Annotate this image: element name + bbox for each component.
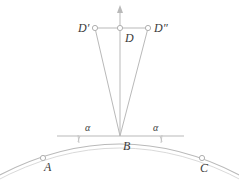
- point-marker-d-double-prime: [145, 25, 150, 30]
- label-alpha-right: α: [153, 123, 158, 133]
- label-b: B: [123, 140, 130, 152]
- point-marker-d: [117, 25, 122, 30]
- up-arrow-head-icon: [117, 5, 123, 13]
- label-a: A: [44, 161, 51, 173]
- diagram-canvas: [0, 0, 239, 182]
- label-d: D: [125, 32, 134, 44]
- label-d-double-prime: D″: [154, 22, 168, 34]
- label-d-prime: D′: [78, 22, 89, 34]
- point-marker-c: [199, 155, 204, 160]
- point-marker-d-prime: [92, 25, 97, 30]
- label-alpha-left: α: [85, 123, 90, 133]
- label-c: C: [200, 162, 208, 174]
- segment-b-to-d-prime: [95, 28, 120, 136]
- geometry-diagram: D′ D D″ A B C α α: [0, 0, 239, 182]
